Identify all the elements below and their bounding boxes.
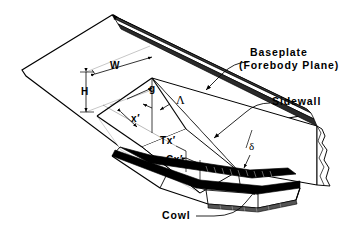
right-end-breakaway-edge <box>317 126 330 186</box>
dimension-label-delta: δ <box>249 140 255 152</box>
dimension-label-lambda: Λ <box>176 93 185 108</box>
dimension-label-H: H <box>81 86 89 97</box>
dimension-label-g: g <box>149 83 156 94</box>
dimension-label-x-prime: x′ <box>131 113 140 124</box>
callout-baseplate-line1: Baseplate <box>250 46 308 58</box>
diagram-canvas <box>0 0 354 233</box>
inlet-schematic-figure: Baseplate (Forebody Plane) Sidewall Cowl… <box>0 0 354 233</box>
dimension-label-Tx-prime: Tx′ <box>160 135 176 146</box>
callout-sidewall: Sidewall <box>272 95 321 107</box>
dimension-label-W: W <box>110 60 120 71</box>
dimension-label-Cx-prime: Cx′ <box>166 154 183 165</box>
callout-cowl: Cowl <box>162 209 191 221</box>
callout-baseplate-line2: (Forebody Plane) <box>239 59 339 71</box>
